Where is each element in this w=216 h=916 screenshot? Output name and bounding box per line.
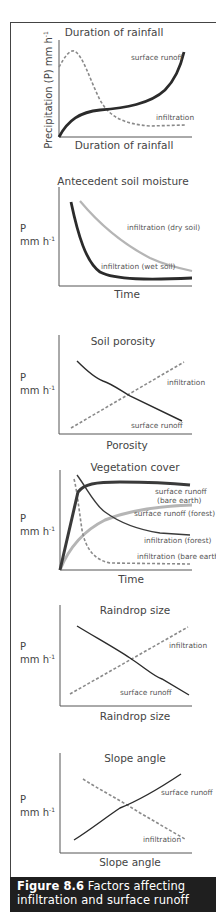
figure-number: Figure 8.6 — [17, 879, 84, 893]
panel-antecedent-soil-moisture: Antecedent soil moisture P mm h-1 Time i… — [20, 175, 200, 300]
panel-vegetation-cover: Vegetation cover P mm h-1 Time surface r… — [20, 461, 216, 585]
x-axis-label: Duration of rainfall — [75, 139, 174, 151]
panel-title: Antecedent soil moisture — [57, 175, 188, 187]
series-label: (bare earth) — [157, 496, 202, 505]
x-axis-label: Slope angle — [99, 856, 161, 868]
curve-surface-runoff — [74, 774, 181, 840]
curve-surface-runoff — [77, 361, 182, 421]
figure-caption: Figure 8.6 Factors affecting infiltratio… — [10, 877, 216, 912]
panel-title: Soil porosity — [91, 335, 156, 347]
series-label: surface runoff — [161, 788, 214, 797]
y-axis-label-p: P — [20, 372, 26, 383]
series-label: infiltration — [167, 378, 205, 387]
panel-title: Duration of rainfall — [65, 26, 164, 38]
panel-slope-angle: Slope angle P mm h-1 Slope angle surface… — [20, 752, 214, 868]
series-label: surface runoff — [131, 421, 184, 430]
x-axis-label: Porosity — [106, 439, 148, 451]
panel-title: Slope angle — [104, 752, 166, 764]
x-axis-label: Time — [113, 288, 140, 300]
series-label: infiltration (bare earth) — [137, 552, 216, 561]
y-axis-label-units: mm h-1 — [20, 525, 55, 537]
curve-surface-runoff — [59, 52, 184, 137]
panel-title: Vegetation cover — [90, 461, 180, 473]
series-label: infiltration (dry soil) — [127, 223, 200, 232]
caption-line2: infiltration and surface runoff — [17, 893, 216, 907]
panel-soil-porosity: Soil porosity P mm h-1 Porosity infiltra… — [20, 335, 205, 451]
panel-raindrop-size: Raindrop size P mm h-1 Raindrop size inf… — [20, 604, 207, 722]
series-label: infiltration (forest) — [144, 536, 212, 545]
y-axis-label-units: mm h-1 — [20, 235, 55, 247]
x-axis-label: Time — [117, 573, 144, 585]
y-axis-label-units: mm h-1 — [20, 806, 55, 818]
series-label: surface runoff (forest) — [134, 509, 215, 518]
series-label: infiltration — [143, 835, 181, 844]
x-axis-label: Raindrop size — [100, 710, 171, 722]
y-axis-label-units: mm h-1 — [20, 384, 55, 396]
y-axis-label: Precipitation (P) mm h-1 — [42, 31, 54, 149]
panel-title: Raindrop size — [100, 604, 171, 616]
figure-panels: Duration of rainfall Precipitation (P) m… — [0, 0, 216, 916]
curve-infiltration-dry-soil — [80, 201, 192, 271]
panel-duration-of-rainfall: Duration of rainfall Precipitation (P) m… — [42, 26, 194, 151]
y-axis-label-p: P — [20, 794, 26, 805]
y-axis-label-units: mm h-1 — [20, 653, 55, 665]
series-label: infiltration — [169, 641, 207, 650]
y-axis-label-p: P — [20, 513, 26, 524]
y-axis-label-p: P — [20, 223, 26, 234]
series-label: infiltration — [156, 113, 194, 122]
series-label: surface runoff — [131, 53, 184, 62]
caption-line1: Factors affecting — [88, 879, 185, 893]
series-label: infiltration (wet soil) — [101, 262, 176, 271]
series-label: surface runoff — [120, 688, 173, 697]
y-axis-label-p: P — [20, 641, 26, 652]
series-label: surface runoff — [155, 487, 208, 496]
